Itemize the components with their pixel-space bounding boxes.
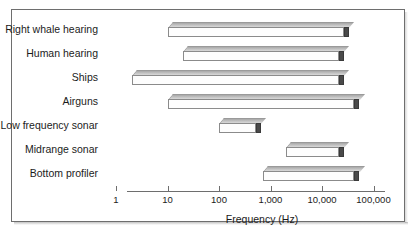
bar-end-cap <box>256 123 261 133</box>
bar-end-cap <box>339 147 344 157</box>
bar-end-cap <box>354 99 359 109</box>
row-label: Bottom profiler <box>0 161 98 185</box>
range-bar <box>219 118 261 129</box>
row-label: Low frequency sonar <box>0 113 98 137</box>
range-bar <box>132 70 344 81</box>
chart-row: Ships <box>12 65 404 89</box>
figure-container: Right whale hearingHuman hearingShipsAir… <box>0 0 416 236</box>
row-label: Ships <box>0 65 98 89</box>
range-bar <box>183 46 344 57</box>
chart-frame: Right whale hearingHuman hearingShipsAir… <box>11 9 405 222</box>
bar-front-face <box>263 171 355 181</box>
bar-end-cap <box>339 51 344 61</box>
chart-row: Midrange sonar <box>12 137 404 161</box>
x-axis-tick-label: 100,000 <box>334 194 414 205</box>
range-bar <box>168 94 360 105</box>
chart-row: Airguns <box>12 89 404 113</box>
x-axis-line <box>127 191 385 192</box>
bar-end-cap <box>339 75 344 85</box>
bar-front-face <box>286 147 339 157</box>
range-bar <box>263 166 360 177</box>
x-axis-tick <box>168 186 169 191</box>
bar-front-face <box>168 99 355 109</box>
range-bar <box>286 142 344 153</box>
x-axis-tick <box>271 186 272 191</box>
x-axis-tick <box>116 186 117 191</box>
bar-front-face <box>168 27 344 37</box>
bar-end-cap <box>354 171 359 181</box>
bar-front-face <box>219 123 256 133</box>
scan-shadow-right <box>405 12 408 223</box>
x-axis-tick <box>219 186 220 191</box>
chart-row: Human hearing <box>12 41 404 65</box>
row-label: Right whale hearing <box>0 17 98 41</box>
chart-row: Bottom profiler <box>12 161 404 185</box>
row-label: Human hearing <box>0 41 98 65</box>
row-label: Airguns <box>0 89 98 113</box>
x-axis-tick <box>322 186 323 191</box>
x-axis-title: Frequency (Hz) <box>162 213 362 225</box>
bar-front-face <box>183 51 339 61</box>
row-label: Midrange sonar <box>0 137 98 161</box>
bar-end-cap <box>344 27 349 37</box>
chart-row: Low frequency sonar <box>12 113 404 137</box>
x-axis-tick <box>374 186 375 191</box>
range-bar <box>168 22 349 33</box>
bar-front-face <box>132 75 339 85</box>
chart-row: Right whale hearing <box>12 17 404 41</box>
